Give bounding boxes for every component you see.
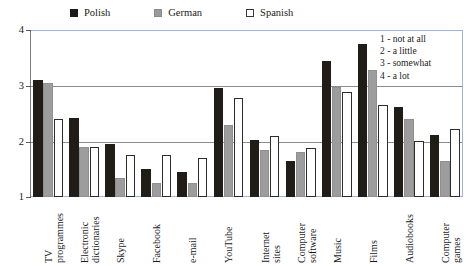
bar bbox=[115, 178, 124, 197]
bar bbox=[440, 161, 449, 197]
scale-key-line-3: 3 - somewhat bbox=[380, 57, 466, 69]
chart-legend: Polish German Spanish bbox=[70, 4, 400, 22]
bar-group bbox=[322, 30, 352, 197]
filled-square-icon bbox=[70, 9, 78, 17]
scale-key-line-4: 4 - a lot bbox=[380, 70, 466, 82]
bar bbox=[270, 136, 279, 197]
bar bbox=[105, 144, 114, 197]
bar-group bbox=[105, 30, 135, 197]
bar bbox=[394, 107, 403, 197]
bar bbox=[430, 135, 439, 197]
scale-key-line-1: 1 - not at all bbox=[380, 33, 466, 45]
bar-group bbox=[141, 30, 171, 197]
bar bbox=[342, 92, 351, 197]
bar-group bbox=[286, 30, 316, 197]
x-axis-label: Computergames bbox=[441, 199, 469, 265]
bar bbox=[306, 148, 315, 197]
bar bbox=[33, 80, 42, 197]
legend-item-polish: Polish bbox=[70, 8, 110, 19]
bar bbox=[332, 87, 341, 197]
bar bbox=[214, 88, 223, 197]
x-axis-labels: TVprogrammesElectronicdictionariesSkypeF… bbox=[30, 199, 463, 266]
gray-square-icon bbox=[154, 9, 162, 17]
bar bbox=[322, 61, 331, 197]
bar bbox=[286, 161, 295, 197]
legend-item-german: German bbox=[154, 8, 202, 19]
chart-figure: Polish German Spanish 4 3 2 1 1 - not at… bbox=[0, 0, 469, 266]
outline-square-icon bbox=[246, 9, 254, 17]
bar bbox=[296, 152, 305, 197]
bar bbox=[250, 140, 259, 197]
bar bbox=[54, 119, 63, 197]
bar bbox=[260, 150, 269, 197]
y-tick-label-4: 4 bbox=[4, 25, 24, 35]
bar bbox=[141, 169, 150, 197]
bar bbox=[404, 119, 413, 197]
bar bbox=[162, 155, 171, 197]
bar bbox=[378, 105, 387, 197]
y-tick-label-2: 2 bbox=[4, 137, 24, 147]
legend-label-german: German bbox=[168, 8, 202, 19]
bar-group bbox=[33, 30, 63, 197]
bar-group bbox=[250, 30, 280, 197]
legend-label-polish: Polish bbox=[84, 8, 110, 19]
bar bbox=[69, 118, 78, 197]
bar-group bbox=[177, 30, 207, 197]
bar-group bbox=[69, 30, 99, 197]
bar bbox=[90, 147, 99, 197]
bar-group bbox=[214, 30, 244, 197]
y-tick-label-3: 3 bbox=[4, 81, 24, 91]
scale-key-line-2: 2 - a little bbox=[380, 45, 466, 57]
legend-item-spanish: Spanish bbox=[246, 8, 293, 19]
bar bbox=[43, 83, 52, 197]
scale-key-annotation: 1 - not at all 2 - a little 3 - somewhat… bbox=[380, 33, 466, 82]
bar bbox=[414, 141, 423, 197]
bar bbox=[177, 172, 186, 197]
bar bbox=[358, 44, 367, 197]
y-tick-label-1: 1 bbox=[4, 192, 24, 202]
bar bbox=[224, 125, 233, 197]
bar bbox=[450, 129, 459, 197]
bar bbox=[126, 155, 135, 197]
bar bbox=[152, 183, 161, 197]
bar bbox=[79, 147, 88, 197]
bar bbox=[234, 98, 243, 197]
bar bbox=[188, 183, 197, 197]
legend-label-spanish: Spanish bbox=[260, 8, 293, 19]
y-tick-1 bbox=[26, 197, 31, 198]
bar bbox=[368, 70, 377, 197]
bar bbox=[198, 158, 207, 197]
